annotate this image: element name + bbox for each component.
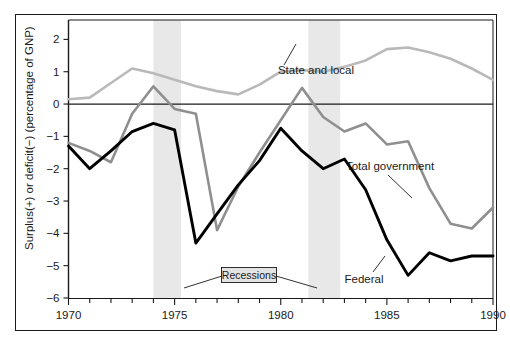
y-tick-label: −6 (46, 292, 59, 304)
chart-figure: 210−1−2−3−4−5−6 19701975198019851990 Sur… (0, 0, 510, 347)
series-label-federal: Federal (345, 273, 384, 285)
y-tick-label: −2 (46, 163, 59, 175)
y-tick-label: 0 (53, 98, 59, 110)
y-axis-title: Surplus(+) or deficit(−) (percentage of … (23, 26, 35, 250)
series-label-state-and-local: State and local (278, 64, 354, 76)
x-tick-label: 1970 (56, 309, 82, 321)
recessions-label: Recessions (222, 269, 276, 281)
y-tick-label: −4 (46, 227, 60, 239)
x-tick-label: 1975 (162, 309, 188, 321)
y-tick-label: 1 (53, 66, 59, 78)
y-tick-label: 2 (53, 33, 59, 45)
series-label-total-government: Total government (346, 160, 435, 172)
x-tick-label: 1985 (374, 309, 400, 321)
x-tick-label: 1990 (480, 309, 506, 321)
chart-canvas: 210−1−2−3−4−5−6 19701975198019851990 Sur… (0, 0, 510, 347)
y-tick-label: −1 (46, 130, 59, 142)
y-tick-label: −3 (46, 195, 59, 207)
x-tick-label: 1980 (268, 309, 294, 321)
recession-band-1 (153, 20, 181, 298)
y-tick-label: −5 (46, 260, 59, 272)
figure-border (16, 15, 497, 331)
